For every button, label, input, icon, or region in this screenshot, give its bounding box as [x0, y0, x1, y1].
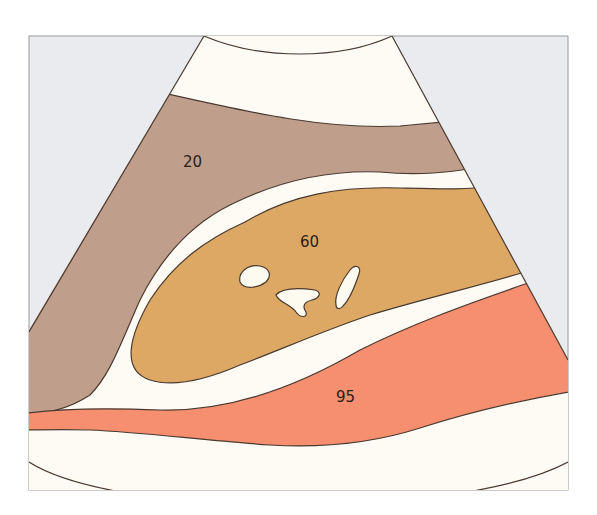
layer-95-label: 95 — [336, 388, 355, 406]
layer-60-label: 60 — [300, 233, 319, 251]
layer-20-label: 20 — [183, 153, 202, 171]
ultrasound-sector-diagram: 20 60 95 — [0, 0, 597, 515]
